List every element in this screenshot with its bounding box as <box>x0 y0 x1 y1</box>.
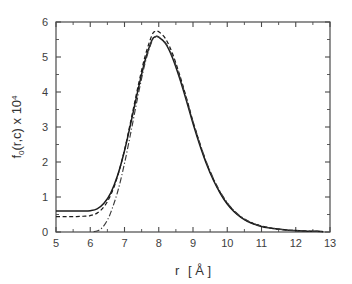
x-axis-label-unit: [ Å ] <box>188 263 211 278</box>
y-axis-label-superscript: 4 <box>10 95 19 100</box>
y-tick-label: 2 <box>42 156 48 168</box>
svg-text:r [ Å ]: r [ Å ] <box>175 263 211 278</box>
y-tick-label: 0 <box>42 226 48 238</box>
y-tick-label: 1 <box>42 191 48 203</box>
x-tick-label: 5 <box>53 237 59 249</box>
x-axis-label-variable: r <box>175 263 180 278</box>
y-tick-label: 5 <box>42 51 48 63</box>
x-tick-label: 13 <box>324 237 336 249</box>
svg-text:f0(r,c) x 104: f0(r,c) x 104 <box>9 95 26 159</box>
x-tick-label: 6 <box>87 237 93 249</box>
figure-container: 5678910111213 0123456 r [ Å ] f0(r,c) x … <box>0 0 352 284</box>
y-tick-label: 6 <box>42 16 48 28</box>
x-tick-label: 8 <box>156 237 162 249</box>
y-axis-label: f0(r,c) x 104 <box>9 95 26 159</box>
x-tick-label: 9 <box>190 237 196 249</box>
y-tick-label: 4 <box>42 86 48 98</box>
x-tick-label: 7 <box>121 237 127 249</box>
x-tick-label: 10 <box>221 237 233 249</box>
x-tick-label: 12 <box>290 237 302 249</box>
x-tick-label: 11 <box>256 237 267 249</box>
x-axis-label: r [ Å ] <box>175 263 211 278</box>
line-chart: 5678910111213 0123456 r [ Å ] f0(r,c) x … <box>0 0 352 284</box>
y-axis-label-mid: (r,c) x 10 <box>9 100 24 151</box>
y-tick-label: 3 <box>42 121 48 133</box>
